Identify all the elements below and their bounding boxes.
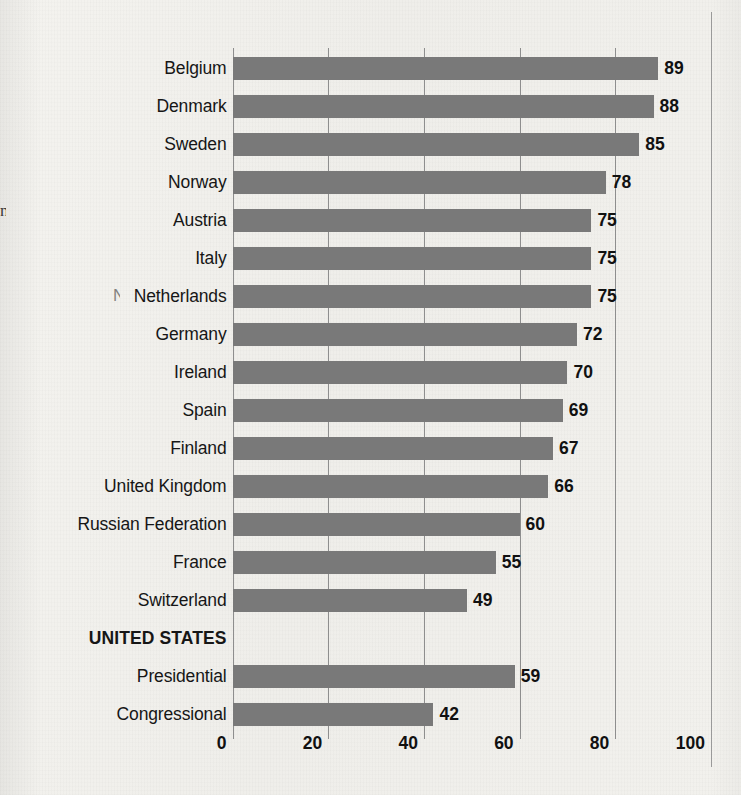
- bar-value-label: 75: [597, 285, 616, 308]
- category-label: Finland: [5, 429, 227, 467]
- bar: [233, 133, 640, 156]
- category-label: United Kingdom: [5, 467, 227, 505]
- bar-row: Finland67: [0, 429, 741, 467]
- x-tick-label-60: 60: [494, 733, 513, 754]
- x-axis-tick-labels: 020406080100: [0, 726, 741, 754]
- bar: [233, 589, 467, 612]
- category-label: Belgium: [5, 49, 227, 87]
- bar: [233, 171, 606, 194]
- bar: [233, 399, 563, 422]
- category-label: Netherlands: [5, 277, 227, 315]
- bar: [233, 361, 568, 384]
- bar-value-label: 78: [612, 171, 631, 194]
- bar-value-label: 70: [573, 361, 592, 384]
- category-group-heading: UNITED STATES: [5, 619, 227, 657]
- bar-value-label: 75: [597, 247, 616, 270]
- bar-row: Spain69: [0, 391, 741, 429]
- bar-row: UNITED STATES: [0, 619, 741, 657]
- bar-value-label: 55: [502, 551, 521, 574]
- bar: [233, 475, 549, 498]
- bar: [233, 703, 434, 726]
- category-label: Denmark: [5, 87, 227, 125]
- category-label: Germany: [5, 315, 227, 353]
- bar-value-label: 66: [554, 475, 573, 498]
- bar: [233, 57, 659, 80]
- bar: [233, 665, 515, 688]
- bar-row: Austria75: [0, 201, 741, 239]
- bar-row: Denmark88: [0, 87, 741, 125]
- x-tick-label-0: 0: [217, 733, 227, 754]
- bar: [233, 95, 654, 118]
- bar-row: Presidential59: [0, 657, 741, 695]
- bar-value-label: 67: [559, 437, 578, 460]
- bar-value-label: 88: [660, 95, 679, 118]
- category-label: Presidential: [5, 657, 227, 695]
- bar: [233, 285, 592, 308]
- bar-row: Ireland70: [0, 353, 741, 391]
- x-tick-label-40: 40: [398, 733, 417, 754]
- bar-chart: n N Belgium89Denmark88Sweden85Norway78Au…: [0, 0, 741, 795]
- bar-value-label: 60: [526, 513, 545, 536]
- bar: [233, 437, 554, 460]
- bar: [233, 323, 578, 346]
- bar-value-label: 89: [664, 57, 683, 80]
- bar-row: Italy75: [0, 239, 741, 277]
- category-label: Spain: [5, 391, 227, 429]
- bar-value-label: 42: [439, 703, 458, 726]
- category-label: Norway: [5, 163, 227, 201]
- x-tick-label-100: 100: [676, 733, 705, 754]
- bar-row: Sweden85: [0, 125, 741, 163]
- bar-value-label: 85: [645, 133, 664, 156]
- bar-row: Belgium89: [0, 49, 741, 87]
- category-label: Italy: [5, 239, 227, 277]
- category-label: Sweden: [5, 125, 227, 163]
- x-tick-label-80: 80: [590, 733, 609, 754]
- x-tick-label-20: 20: [303, 733, 322, 754]
- bar-row: Netherlands75: [0, 277, 741, 315]
- bar-row: Switzerland49: [0, 581, 741, 619]
- bar-row: United Kingdom66: [0, 467, 741, 505]
- bar-value-label: 72: [583, 323, 602, 346]
- category-label: Switzerland: [5, 581, 227, 619]
- category-label: France: [5, 543, 227, 581]
- bar: [233, 513, 520, 536]
- bar-value-label: 59: [521, 665, 540, 688]
- bar-row: Russian Federation60: [0, 505, 741, 543]
- bar-value-label: 75: [597, 209, 616, 232]
- category-label: Ireland: [5, 353, 227, 391]
- bar-row: Germany72: [0, 315, 741, 353]
- bar-value-label: 49: [473, 589, 492, 612]
- bar-row: Norway78: [0, 163, 741, 201]
- bar: [233, 209, 592, 232]
- bar-value-label: 69: [569, 399, 588, 422]
- category-label: Austria: [5, 201, 227, 239]
- bar: [233, 551, 496, 574]
- bar-row: France55: [0, 543, 741, 581]
- bar: [233, 247, 592, 270]
- category-label: Russian Federation: [5, 505, 227, 543]
